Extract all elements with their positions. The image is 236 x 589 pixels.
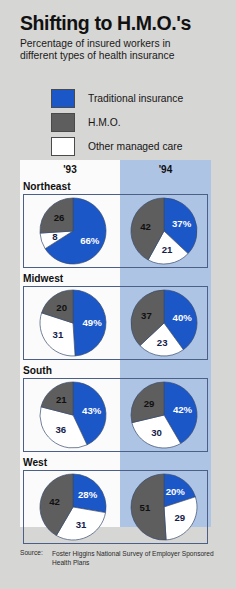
- pie-slice-label: 43%: [82, 405, 102, 416]
- legend-item: Traditional insurance: [51, 86, 183, 110]
- legend-item-label: Traditional insurance: [88, 93, 183, 104]
- pie-cell: 66%826: [24, 195, 121, 267]
- region-chart-box: 43%362142%3029: [23, 378, 208, 452]
- region-chart-box: 66%82637%2142: [23, 194, 208, 268]
- pie-slice-label: 49%: [82, 317, 102, 328]
- region-row: Northeast66%82637%2142: [20, 179, 211, 271]
- legend-swatch-icon: [51, 137, 75, 156]
- pie-slice-label: 29: [144, 398, 155, 409]
- pie-slice-label: 51: [140, 502, 151, 513]
- pie-cell: 37%2142: [121, 195, 207, 267]
- legend-swatch-icon: [51, 89, 75, 108]
- pie-cell: 42%3029: [121, 379, 207, 451]
- pie-slice-label: 37: [141, 310, 152, 321]
- source-text: Foster Higgins National Survey of Employ…: [52, 549, 225, 567]
- pie-slice-label: 21: [162, 244, 173, 255]
- pie-slice-label: 8: [52, 231, 58, 242]
- pie-slice-label: 42: [49, 496, 60, 507]
- legend-item: Other managed care: [51, 134, 183, 158]
- region-label: Northeast: [23, 179, 71, 194]
- pie-chart: 37%2142: [121, 195, 207, 267]
- pie-slice-label: 42: [140, 221, 151, 232]
- pie-chart: 40%2337: [121, 287, 207, 359]
- pie-chart: 20%2951: [121, 471, 207, 543]
- page-title: Shifting to H.M.O.'s: [20, 14, 191, 34]
- region-grid: '93 '94 Northeast66%82637%2142Midwest49%…: [20, 160, 211, 527]
- infographic-page: Shifting to H.M.O.'s Percentage of insur…: [0, 0, 236, 589]
- column-header-1994: '94: [120, 160, 211, 179]
- region-label: South: [23, 363, 52, 378]
- pie-chart: 42%3029: [121, 379, 207, 451]
- pie-slice-label: 42%: [173, 404, 193, 415]
- legend-item: H.M.O.: [51, 110, 183, 134]
- region-chart-box: 28%314220%2951: [23, 470, 208, 544]
- pie-slice-label: 66%: [80, 235, 100, 246]
- pie-chart: 43%3621: [24, 379, 121, 451]
- pie-slice-label: 21: [56, 394, 67, 405]
- pie-slice-label: 23: [157, 337, 168, 348]
- column-header-1993: '93: [20, 160, 120, 179]
- pie-slice-label: 37%: [172, 218, 192, 229]
- region-chart-box: 49%312040%2337: [23, 286, 208, 360]
- legend-swatch-icon: [51, 113, 75, 132]
- region-row: West28%314220%2951: [20, 455, 211, 547]
- pie-slice-label: 20: [56, 302, 67, 313]
- pie-cell: 43%3621: [24, 379, 121, 451]
- pie-cell: 49%3120: [24, 287, 121, 359]
- region-row: Midwest49%312040%2337: [20, 271, 211, 363]
- pie-slice-label: 26: [54, 212, 65, 223]
- region-label: Midwest: [23, 271, 63, 286]
- pie-slice-label: 36: [55, 424, 66, 435]
- pie-slice-label: 28%: [78, 489, 98, 500]
- source-label: Source:: [20, 549, 52, 567]
- legend-item-label: Other managed care: [88, 141, 182, 152]
- pie-slice-label: 30: [151, 427, 162, 438]
- pie-slice-label: 29: [174, 512, 185, 523]
- region-row: South43%362142%3029: [20, 363, 211, 455]
- pie-slice-label: 40%: [173, 312, 193, 323]
- subtitle-line-1: Percentage of insured workers in: [20, 38, 220, 50]
- pie-chart: 28%3142: [24, 471, 121, 543]
- page-subtitle: Percentage of insured workers in differe…: [20, 38, 220, 63]
- chart-legend: Traditional insuranceH.M.O.Other managed…: [51, 86, 183, 158]
- pie-cell: 20%2951: [121, 471, 207, 543]
- source-note: Source: Foster Higgins National Survey o…: [20, 549, 225, 567]
- pie-cell: 28%3142: [24, 471, 121, 543]
- pie-slice-label: 31: [53, 329, 64, 340]
- subtitle-line-2: different types of health insurance: [20, 50, 220, 62]
- pie-slice-label: 20%: [166, 486, 186, 497]
- pie-chart: 49%3120: [24, 287, 121, 359]
- pie-cell: 40%2337: [121, 287, 207, 359]
- pie-slice-label: 31: [76, 519, 87, 530]
- pie-chart: 66%826: [24, 195, 121, 267]
- region-label: West: [23, 455, 47, 470]
- legend-item-label: H.M.O.: [88, 117, 121, 128]
